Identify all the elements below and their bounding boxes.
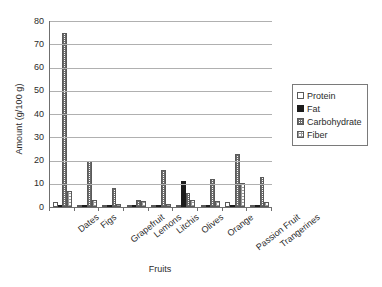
x-tick-mark — [49, 207, 50, 211]
x-tick-mark — [74, 207, 75, 211]
x-axis-title: Fruits — [49, 264, 271, 274]
x-tick-mark — [271, 207, 272, 211]
x-category-label: Olives — [199, 212, 225, 235]
legend-swatch-icon — [297, 131, 304, 138]
x-tick-mark — [222, 207, 223, 211]
legend-label: Carbohydrate — [307, 117, 362, 127]
x-tick-mark — [172, 207, 173, 211]
x-category-label: Orange — [225, 212, 255, 238]
legend-label: Protein — [307, 91, 336, 101]
x-tick-mark — [197, 207, 198, 211]
x-tick-mark — [123, 207, 124, 211]
legend-item-protein[interactable]: Protein — [297, 89, 362, 102]
legend-swatch-icon — [297, 118, 304, 125]
x-category-label: Figs — [99, 212, 119, 230]
legend-item-fiber[interactable]: Fiber — [297, 128, 362, 141]
legend-swatch-icon — [297, 105, 304, 112]
x-tick-mark — [148, 207, 149, 211]
x-tick-mark — [246, 207, 247, 211]
legend-swatch-icon — [297, 92, 304, 99]
legend-label: Fat — [307, 104, 320, 114]
bar-chart: Amount (g/100 g) 01020304050607080 Dates… — [0, 0, 382, 287]
x-tick-mark — [98, 207, 99, 211]
x-category-label: Dates — [76, 212, 101, 234]
legend: ProteinFatCarbohydrateFiber — [292, 84, 368, 146]
legend-label: Fiber — [307, 130, 328, 140]
legend-item-fat[interactable]: Fat — [297, 102, 362, 115]
legend-item-carbohydrate[interactable]: Carbohydrate — [297, 115, 362, 128]
